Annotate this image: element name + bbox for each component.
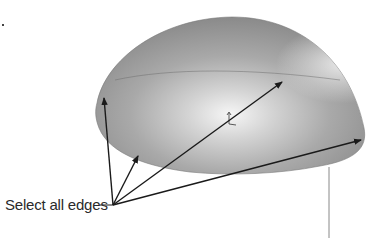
dome-surface: [96, 17, 365, 174]
arrow-bottom-edge: [113, 156, 138, 205]
callout-label: Select all edges: [5, 196, 108, 213]
